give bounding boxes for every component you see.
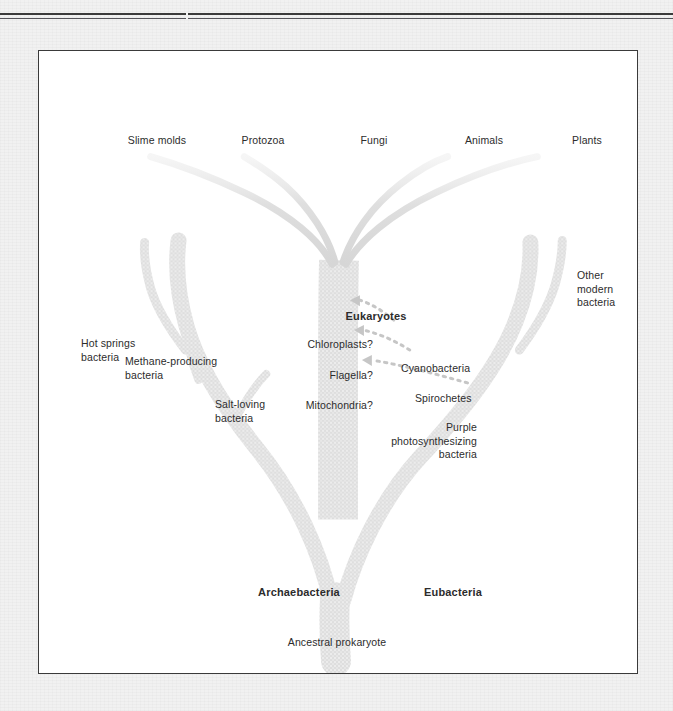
top-rule-thin [0, 18, 673, 19]
label-plants: Plants [572, 134, 602, 148]
figure-page: Slime molds Protozoa Fungi Animals Plant… [0, 0, 673, 711]
label-cyanobacteria: Cyanobacteria [401, 362, 470, 376]
label-animals: Animals [465, 134, 503, 148]
label-methane-producing-bacteria: Methane-producing bacteria [125, 355, 217, 382]
label-archaebacteria: Archaebacteria [258, 586, 340, 600]
label-fungi: Fungi [361, 134, 388, 148]
label-eukaryotes: Eukaryotes [346, 310, 407, 324]
label-spirochetes: Spirochetes [415, 392, 472, 406]
label-other-modern-bacteria: Other modern bacteria [577, 269, 615, 310]
label-purple-photosynthesizing-bacteria: Purple photosynthesizing bacteria [391, 421, 477, 462]
figure-panel: Slime molds Protozoa Fungi Animals Plant… [38, 50, 638, 674]
label-salt-loving-bacteria: Salt-loving bacteria [215, 398, 265, 425]
label-flagella: Flagella? [329, 369, 373, 383]
arrowhead-mitochondria [362, 355, 372, 366]
label-eubacteria: Eubacteria [424, 586, 482, 600]
top-rule-gap [186, 13, 188, 19]
label-chloroplasts: Chloroplasts? [307, 338, 373, 352]
label-slime-molds: Slime molds [128, 134, 186, 148]
branch-eukaryote-trunk [338, 260, 339, 519]
label-protozoa: Protozoa [242, 134, 285, 148]
top-rule-thick [0, 13, 673, 15]
label-mitochondria: Mitochondria? [306, 399, 373, 413]
label-ancestral-prokaryote: Ancestral prokaryote [288, 636, 386, 650]
